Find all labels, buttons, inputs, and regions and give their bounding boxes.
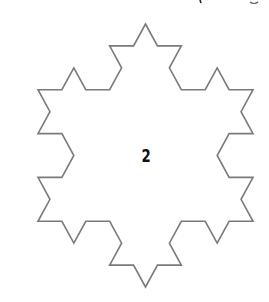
koch-snowflake-shape xyxy=(0,0,269,302)
iteration-number-label: 2 xyxy=(141,147,150,164)
figure-canvas: 2 xyxy=(0,0,269,302)
